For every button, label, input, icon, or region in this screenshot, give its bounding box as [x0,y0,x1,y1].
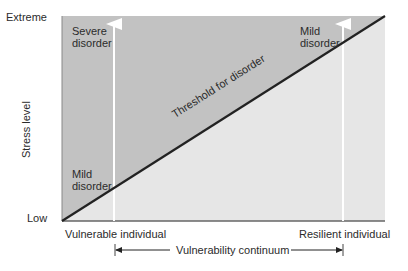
vulnerable-individual-label: Vulnerable individual [65,228,166,240]
severe-disorder-label: Severe disorder [72,25,112,49]
mild-disorder-right-label: Mild disorder [300,25,340,49]
resilient-individual-label: Resilient individual [299,228,390,240]
vulnerability-continuum-label: Vulnerability continuum [174,244,291,256]
y-tick-low: Low [27,212,47,224]
mild-disorder-left-label: Mild disorder [72,168,112,192]
y-axis-label: Stress level [20,101,32,158]
y-tick-extreme: Extreme [6,11,47,23]
